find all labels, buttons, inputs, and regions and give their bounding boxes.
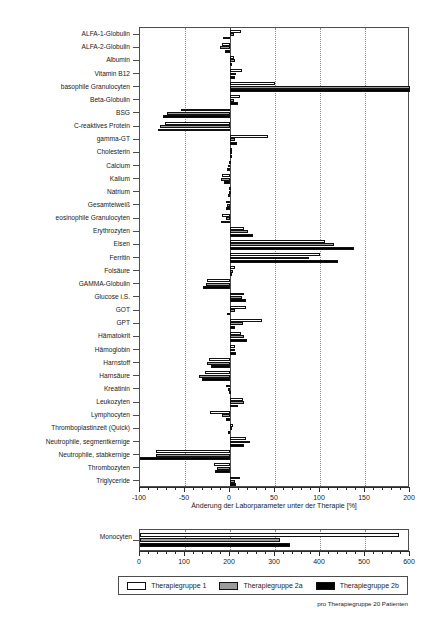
x-tick-minor — [382, 551, 383, 554]
bar — [140, 543, 290, 547]
bar — [228, 431, 230, 434]
x-tick-major — [364, 487, 365, 492]
x-tick-major — [229, 551, 230, 556]
bar — [230, 89, 410, 92]
bar — [224, 181, 230, 184]
y-axis-label: Cholesterin — [97, 148, 130, 155]
bar — [209, 358, 230, 361]
bar — [222, 414, 230, 417]
legend-swatch-group2a — [219, 582, 238, 590]
bar — [230, 441, 250, 444]
bar — [230, 260, 338, 263]
bar — [181, 109, 231, 112]
x-tick-minor — [373, 551, 374, 554]
x-tick-label: 0 — [227, 494, 231, 501]
y-axis-label: GOT — [116, 306, 130, 313]
bar — [228, 388, 230, 391]
bar — [230, 257, 309, 260]
bar — [230, 230, 248, 233]
y-axis-label: Hämatokrit — [98, 332, 130, 339]
y-axis-label: Gesamteiweiß — [88, 201, 130, 208]
x-tick-minor — [328, 487, 329, 490]
bar — [230, 142, 237, 145]
x-tick-minor — [292, 487, 293, 490]
bar — [230, 405, 238, 408]
x-tick-minor — [211, 487, 212, 490]
bar — [230, 299, 246, 302]
y-axis-label: Ferritin — [109, 254, 130, 261]
x-tick-minor — [193, 551, 194, 554]
bar — [156, 450, 230, 453]
x-tick-minor — [292, 551, 293, 554]
x-tick-label: 100 — [178, 558, 190, 565]
monocyten-label: Monocyten — [0, 533, 132, 540]
bar — [163, 115, 230, 118]
bar — [230, 33, 234, 36]
x-tick-label: 200 — [403, 494, 415, 501]
bar — [227, 204, 230, 207]
bar — [230, 293, 244, 296]
bar — [227, 168, 230, 171]
bar — [230, 339, 247, 342]
bar — [230, 477, 240, 480]
legend-swatch-group1 — [127, 582, 146, 590]
bar — [207, 362, 230, 365]
chart-page: ALFA-1-GlobulinALFA-2-GlobulinAlbuminVit… — [0, 0, 426, 619]
x-tick-minor — [391, 551, 392, 554]
bar — [140, 538, 280, 542]
x-tick-minor — [265, 487, 266, 490]
legend-label-group2a: Therapiegruppe 2a — [243, 582, 302, 589]
x-tick-minor — [265, 551, 266, 554]
bar — [230, 345, 235, 348]
bar — [230, 30, 241, 33]
bar — [199, 375, 231, 378]
bar — [165, 122, 230, 125]
x-tick-minor — [355, 551, 356, 554]
x-tick-minor — [301, 487, 302, 490]
bar — [167, 112, 230, 115]
x-tick-major — [139, 487, 140, 492]
y-axis-label: Lymphocyten — [91, 411, 130, 418]
y-axis-label: Erythrozyten — [93, 227, 130, 234]
bar — [230, 309, 235, 312]
bar — [230, 73, 236, 76]
legend-item-group2b: Therapiegruppe 2b — [316, 582, 399, 590]
bar — [230, 240, 325, 243]
bar — [160, 125, 230, 128]
x-tick-minor — [337, 551, 338, 554]
monocyten-plot-area — [139, 529, 409, 551]
x-tick-minor — [310, 487, 311, 490]
bar — [202, 378, 230, 381]
bar — [211, 365, 230, 368]
bar — [230, 480, 235, 483]
bar — [230, 352, 236, 355]
x-tick-minor — [202, 551, 203, 554]
x-tick-minor — [400, 487, 401, 490]
bar — [230, 398, 243, 401]
bar — [230, 148, 232, 151]
x-tick-minor — [238, 551, 239, 554]
y-axis-label: Leukozyten — [96, 398, 130, 405]
x-tick-minor — [247, 551, 248, 554]
y-axis-label: C-reaktives Protein — [74, 122, 130, 129]
x-tick-minor — [283, 487, 284, 490]
bar — [222, 214, 230, 217]
bar — [203, 286, 230, 289]
y-axis-label: Glucose i.S. — [94, 293, 130, 300]
x-tick-minor — [391, 487, 392, 490]
y-axis-label: Eisen — [114, 240, 131, 247]
bar — [228, 194, 230, 197]
bar — [221, 221, 230, 224]
y-axis-label: Harnsäure — [99, 372, 130, 379]
x-tick-minor — [337, 487, 338, 490]
bar — [217, 467, 230, 470]
y-axis-label: Albumin — [106, 56, 130, 63]
bar — [230, 349, 235, 352]
y-axis-label: Neutrophile, stabkernige — [59, 451, 130, 458]
y-axis-label: Thrombozyten — [88, 464, 130, 471]
bar — [226, 201, 230, 204]
y-axis-label: ALFA-1-Globulin — [82, 30, 130, 37]
y-axis-label: Vitamin B12 — [95, 70, 130, 77]
y-axis-label: GAMMA-Globulin — [79, 280, 130, 287]
legend-label-group2b: Therapiegruppe 2b — [340, 582, 399, 589]
